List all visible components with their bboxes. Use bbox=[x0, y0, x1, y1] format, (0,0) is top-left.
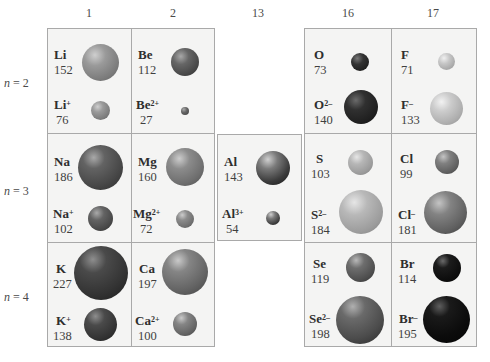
symbol-cl-ion: Cl– bbox=[398, 208, 415, 222]
symbol-al: Al bbox=[224, 155, 237, 169]
symbol-k-ion: K+ bbox=[56, 314, 71, 328]
divider-period-2-3-right bbox=[304, 133, 477, 134]
radius-s: 103 bbox=[311, 167, 330, 181]
radius-k-ion: 138 bbox=[53, 329, 72, 343]
sphere-be bbox=[171, 48, 199, 76]
radius-mg-ion: 72 bbox=[140, 222, 153, 236]
radius-be-ion: 27 bbox=[140, 113, 153, 127]
sphere-f bbox=[438, 53, 455, 70]
symbol-se-ion: Se2– bbox=[309, 312, 330, 326]
sphere-o bbox=[351, 53, 369, 71]
sphere-o-ion bbox=[344, 90, 378, 124]
symbol-br-ion: Br– bbox=[399, 312, 417, 326]
symbol-cl: Cl bbox=[400, 152, 413, 166]
symbol-mg-ion: Mg2+ bbox=[133, 207, 160, 221]
symbol-na-ion: Na+ bbox=[53, 207, 73, 221]
period-label-4: n = 4 bbox=[4, 290, 29, 305]
symbol-se: Se bbox=[313, 257, 326, 271]
symbol-o: O bbox=[314, 48, 324, 62]
sphere-be-ion bbox=[181, 107, 189, 115]
symbol-be-ion: Be2+ bbox=[136, 98, 159, 112]
sphere-se bbox=[346, 253, 375, 282]
symbol-ca-ion: Ca2+ bbox=[135, 314, 159, 328]
symbol-ca: Ca bbox=[139, 262, 155, 276]
symbol-li: Li bbox=[54, 48, 66, 62]
period-label-3: n = 3 bbox=[4, 184, 29, 199]
sphere-s bbox=[348, 150, 373, 175]
sphere-s-ion bbox=[339, 190, 383, 234]
group-label-13: 13 bbox=[238, 6, 278, 21]
symbol-s-ion: S2– bbox=[311, 208, 326, 222]
symbol-al-ion: Al3+ bbox=[222, 207, 244, 221]
divider-period-3-4-left bbox=[47, 242, 215, 243]
divider-period-2-3-left bbox=[47, 133, 215, 134]
radius-se: 119 bbox=[311, 272, 329, 286]
group-label-2: 2 bbox=[153, 6, 193, 21]
symbol-o-ion: O2– bbox=[314, 98, 332, 112]
sphere-f-ion bbox=[430, 92, 463, 125]
radius-al: 143 bbox=[224, 170, 243, 184]
radius-br-ion: 195 bbox=[398, 327, 417, 341]
radius-be: 112 bbox=[138, 63, 156, 77]
sphere-mg-ion bbox=[176, 210, 194, 228]
sphere-k-ion bbox=[84, 308, 117, 341]
radius-s-ion: 184 bbox=[311, 223, 330, 237]
sphere-al-ion bbox=[266, 211, 280, 225]
radius-o-ion: 140 bbox=[314, 113, 333, 127]
radius-f: 71 bbox=[401, 63, 414, 77]
radius-al-ion: 54 bbox=[226, 222, 239, 236]
symbol-mg: Mg bbox=[138, 155, 157, 169]
radius-cl-ion: 181 bbox=[398, 223, 417, 237]
sphere-cl bbox=[435, 150, 459, 174]
divider-group-16-17 bbox=[391, 28, 392, 347]
radius-ca: 197 bbox=[138, 277, 157, 291]
group-label-17: 17 bbox=[413, 6, 453, 21]
symbol-f-ion: F– bbox=[401, 98, 413, 112]
sphere-se-ion bbox=[336, 296, 384, 344]
sphere-cl-ion bbox=[424, 191, 467, 234]
symbol-f: F bbox=[401, 48, 409, 62]
radius-o: 73 bbox=[314, 63, 327, 77]
symbol-na: Na bbox=[54, 155, 70, 169]
sphere-mg bbox=[166, 148, 204, 186]
symbol-be: Be bbox=[138, 48, 152, 62]
sphere-li-ion bbox=[91, 101, 110, 120]
sphere-al bbox=[256, 151, 290, 185]
symbol-li-ion: Li+ bbox=[54, 98, 71, 112]
sphere-li bbox=[82, 44, 119, 81]
radius-li: 152 bbox=[54, 63, 73, 77]
symbol-s: S bbox=[316, 152, 323, 166]
radius-li-ion: 76 bbox=[56, 113, 69, 127]
symbol-k: K bbox=[56, 262, 66, 276]
divider-period-3-4-right bbox=[304, 242, 477, 243]
sphere-ca bbox=[162, 249, 208, 295]
sphere-ca-ion bbox=[173, 312, 197, 336]
radius-f-ion: 133 bbox=[401, 113, 420, 127]
radius-se-ion: 198 bbox=[311, 327, 330, 341]
sphere-br-ion bbox=[423, 296, 470, 343]
radius-ca-ion: 100 bbox=[138, 329, 157, 343]
sphere-k bbox=[74, 246, 128, 300]
group-label-1: 1 bbox=[69, 6, 109, 21]
period-label-2: n = 2 bbox=[4, 76, 29, 91]
radius-na-ion: 102 bbox=[54, 222, 73, 236]
sphere-br bbox=[433, 254, 461, 282]
radius-k: 227 bbox=[53, 277, 72, 291]
sphere-na bbox=[78, 145, 123, 190]
divider-group-1-2 bbox=[131, 28, 132, 347]
radius-br: 114 bbox=[398, 272, 416, 286]
radius-na: 186 bbox=[54, 170, 73, 184]
radius-mg: 160 bbox=[138, 170, 157, 184]
group-label-16: 16 bbox=[328, 6, 368, 21]
radius-cl: 99 bbox=[400, 167, 413, 181]
symbol-br: Br bbox=[400, 257, 414, 271]
sphere-na-ion bbox=[88, 206, 113, 231]
